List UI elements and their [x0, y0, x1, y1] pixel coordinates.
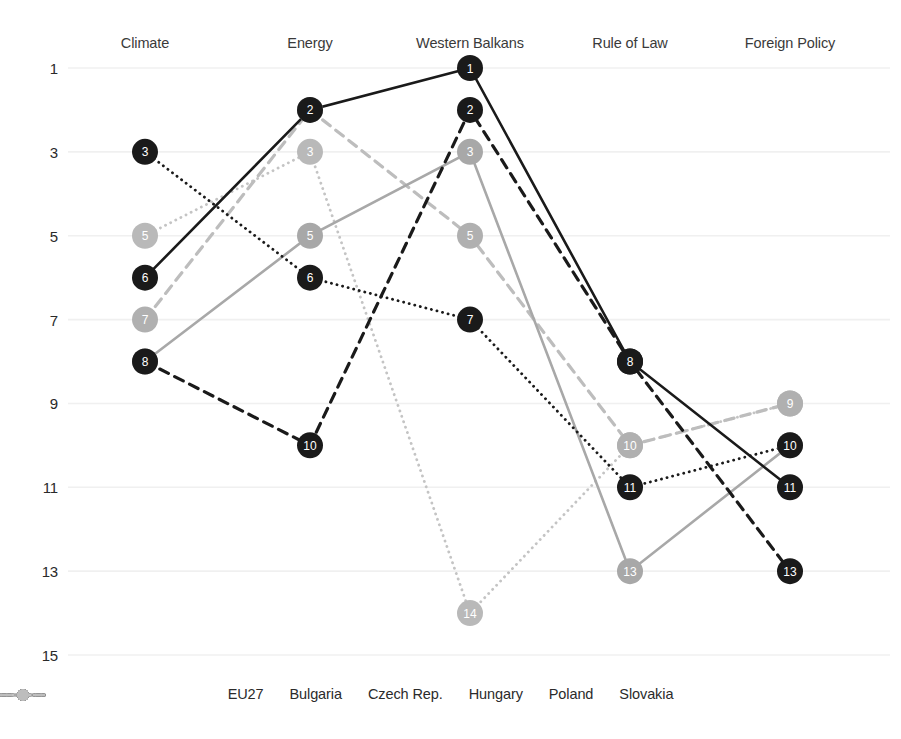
data-point	[297, 97, 323, 123]
y-tick-label: 1	[18, 60, 58, 77]
data-point	[457, 97, 483, 123]
series-line-bulgaria	[145, 68, 790, 487]
data-point	[132, 139, 158, 165]
data-point	[297, 432, 323, 458]
legend-label: Czech Rep.	[368, 686, 443, 702]
category-label-climate: Climate	[121, 35, 169, 51]
data-point	[617, 432, 643, 458]
legend-item-slovakia[interactable]: Slovakia	[619, 686, 673, 702]
legend-label: Hungary	[469, 686, 523, 702]
legend-item-bulgaria[interactable]: Bulgaria	[290, 686, 342, 702]
data-point	[297, 265, 323, 291]
data-point	[457, 55, 483, 81]
data-point	[617, 474, 643, 500]
legend-item-eu27[interactable]: EU27	[228, 686, 264, 702]
legend-item-poland[interactable]: Poland	[549, 686, 594, 702]
series-line-czech-rep-	[145, 152, 790, 571]
legend-label: Poland	[549, 686, 594, 702]
legend-swatch-icon	[0, 686, 46, 704]
category-label-western-balkans: Western Balkans	[416, 35, 524, 51]
data-point	[297, 223, 323, 249]
legend-label: EU27	[228, 686, 264, 702]
y-tick-label: 5	[18, 227, 58, 244]
category-label-energy: Energy	[287, 35, 332, 51]
series-markers-poland: 5314109	[132, 139, 803, 626]
data-point	[457, 223, 483, 249]
y-tick-label: 7	[18, 311, 58, 328]
data-point	[297, 139, 323, 165]
series-markers-czech-rep-: 8531310	[132, 139, 803, 584]
data-point	[132, 223, 158, 249]
data-point	[617, 349, 643, 375]
legend-label: Slovakia	[619, 686, 673, 702]
plot-area: 5314109725109853131036711108102813621811	[0, 0, 901, 739]
series-markers-hungary: 8102813	[132, 97, 803, 584]
data-point	[777, 474, 803, 500]
rank-line-chart: 5314109725109853131036711108102813621811…	[0, 0, 901, 739]
legend-item-hungary[interactable]: Hungary	[469, 686, 523, 702]
category-label-rule-of-law: Rule of Law	[592, 35, 667, 51]
y-tick-label: 13	[18, 563, 58, 580]
chart-legend: EU27BulgariaCzech Rep.HungaryPolandSlova…	[0, 686, 901, 702]
legend-label: Bulgaria	[290, 686, 342, 702]
series-line-poland	[145, 152, 790, 613]
data-point	[132, 349, 158, 375]
data-point	[777, 432, 803, 458]
legend-item-czech-rep-[interactable]: Czech Rep.	[368, 686, 443, 702]
y-tick-label: 15	[18, 647, 58, 664]
y-tick-label: 3	[18, 143, 58, 160]
y-tick-label: 9	[18, 395, 58, 412]
data-point	[132, 265, 158, 291]
category-label-foreign-policy: Foreign Policy	[745, 35, 835, 51]
data-point	[132, 307, 158, 333]
data-point	[457, 307, 483, 333]
data-point	[777, 558, 803, 584]
y-tick-label: 11	[18, 479, 58, 496]
data-point	[457, 139, 483, 165]
data-point	[777, 390, 803, 416]
data-point	[457, 600, 483, 626]
data-point	[617, 558, 643, 584]
